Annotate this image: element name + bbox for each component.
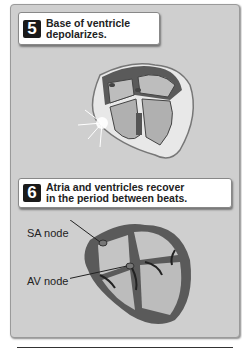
step-5-number: 5 — [23, 20, 41, 38]
step-5-text-line2: depolarizes. — [46, 29, 130, 40]
sa-node-label: SA node — [27, 227, 69, 239]
av-node-label: AV node — [27, 275, 68, 287]
step-6-text: Atria and ventricles recover in the peri… — [46, 182, 187, 204]
step-6-text-line2: in the period between beats. — [46, 193, 187, 204]
step-6-number: 6 — [23, 184, 41, 202]
heart-diagram-depolarizing — [60, 55, 210, 165]
step-6-callout: 6 Atria and ventricles recover in the pe… — [18, 178, 232, 208]
step-5-text-line1: Base of ventricle — [46, 18, 130, 29]
heart-diagram-recovering — [70, 220, 200, 330]
step-5-callout: 5 Base of ventricle depolarizes. — [18, 12, 160, 45]
step-5-text: Base of ventricle depolarizes. — [46, 18, 130, 40]
divider-line — [17, 347, 233, 348]
